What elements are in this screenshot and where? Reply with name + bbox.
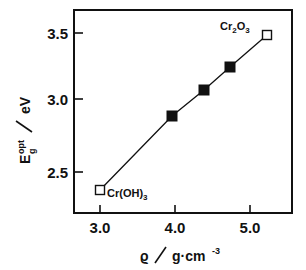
x-axis-units-exponent: -3 [212,246,220,256]
x-axis-ticks [100,205,250,213]
annotation-cr2o3-text: Cr2O3 [220,20,250,35]
annotation-cr-oh-3-formula: Cr [107,187,120,199]
x-tick-label-0: 3.0 [90,219,111,236]
x-tick-label-2: 5.0 [240,219,261,236]
annotation-cr-oh-3-subscript: 3 [143,193,148,202]
y-axis-units: eV [17,96,33,114]
annotation-cr-oh-3-group: (OH) [119,187,143,199]
annotation-cr2o3: Cr2O3 [220,20,250,35]
y-axis-superscript: opt [16,140,26,154]
y-axis-subscript: g [27,149,37,155]
annotation-cr2o3-cr: Cr [220,20,233,32]
annotation-cr-oh-3: Cr(OH)3 [107,187,148,202]
data-point-filled-3 [225,62,235,72]
y-axis-ticks [74,33,83,172]
y-axis-title: E g opt eV [16,96,37,164]
x-axis-title: ϱ g·cm -3 [140,246,220,264]
series-polyline [100,35,267,190]
data-point-open-cr-oh-3 [96,186,105,195]
x-tick-labels: 3.0 4.0 5.0 [90,219,261,236]
y-axis-separator-slash [16,121,32,132]
y-tick-label-0: 2.5 [47,164,68,181]
y-tick-labels: 2.5 3.0 3.5 [47,25,68,181]
x-axis-separator-slash [155,247,166,263]
x-tick-label-1: 4.0 [165,219,186,236]
y-axis-symbol: E [17,155,33,164]
annotation-cr2o3-sub-3: 3 [245,26,250,35]
x-axis-symbol: ϱ [140,248,149,264]
data-point-filled-1 [167,111,177,121]
annotation-cr-oh-3-text: Cr(OH)3 [107,187,148,202]
data-markers [96,31,272,195]
x-axis-units: g·cm [172,248,205,264]
data-series-line [100,35,267,190]
y-tick-label-2: 3.5 [47,25,68,42]
y-tick-label-1: 3.0 [47,91,68,108]
data-point-open-cr2o3 [263,31,272,40]
chart-figure: 3.0 4.0 5.0 2.5 3.0 3.5 Cr(OH)3 [0,0,306,270]
data-point-filled-2 [199,85,209,95]
plot-svg: 3.0 4.0 5.0 2.5 3.0 3.5 Cr(OH)3 [0,0,306,270]
